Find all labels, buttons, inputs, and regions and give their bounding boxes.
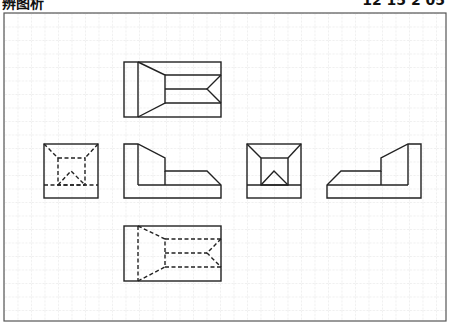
grid-background [4, 13, 446, 321]
drawing-canvas [0, 0, 451, 325]
